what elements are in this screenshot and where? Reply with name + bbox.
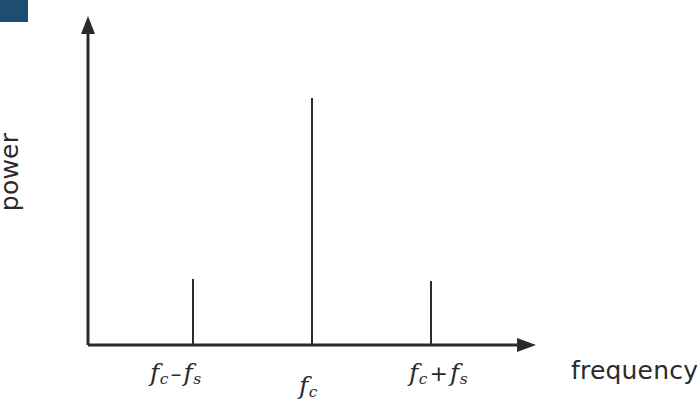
tick-label-lower-sideband: fc–fs	[150, 358, 201, 388]
tick-operator: –	[168, 361, 183, 386]
tick-label-upper-sideband: fc+fs	[409, 358, 468, 388]
tick-subscript-2: s	[193, 370, 201, 388]
x-axis-label: frequency	[571, 356, 698, 385]
tick-subscript: c	[309, 383, 318, 401]
tick-base: f	[150, 358, 159, 387]
tick-base-2: f	[183, 358, 192, 387]
y-axis-label: power	[0, 112, 24, 232]
figure-canvas: power frequency fc–fs fc fc+fs	[0, 0, 698, 417]
y-axis-arrowhead	[81, 16, 95, 34]
tick-base: f	[409, 358, 418, 387]
tick-base-2: f	[450, 358, 459, 387]
tick-operator: +	[427, 361, 449, 386]
tick-subscript-2: s	[460, 370, 468, 388]
x-axis-arrowhead	[517, 338, 536, 352]
tick-base: f	[299, 371, 308, 400]
spectrum-plot	[0, 0, 698, 417]
tick-label-carrier: fc	[299, 371, 317, 401]
